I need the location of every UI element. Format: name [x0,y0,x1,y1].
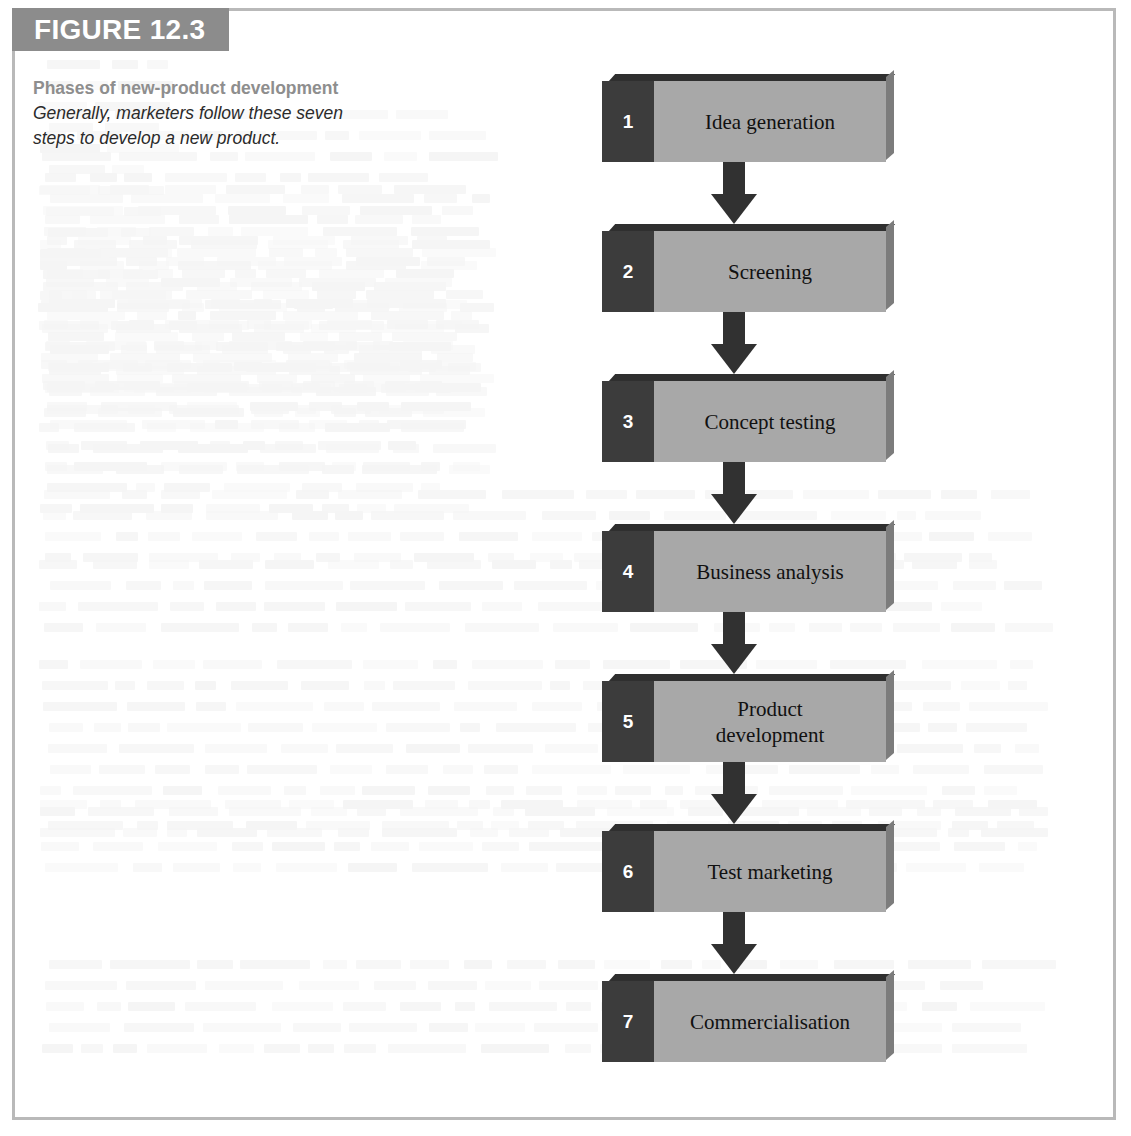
arrow-head [711,644,757,674]
flow-step-right-bevel [886,970,894,1060]
flow-step-body: 6Test marketing [602,831,886,912]
figure-page: FIGURE 12.3 Phases of new-product develo… [0,0,1131,1136]
flow-step-3: 3Concept testing [602,374,894,469]
arrow-shaft [723,612,745,646]
flow-step-body: 4Business analysis [602,531,886,612]
arrow-head [711,194,757,224]
flow-step-number: 7 [602,981,654,1062]
flow-step-right-bevel [886,220,894,310]
flow-step-number: 4 [602,531,654,612]
flow-step-label: Test marketing [654,831,886,912]
arrow-shaft [723,762,745,796]
figure-caption-title: Phases of new-product development [33,78,338,98]
flow-step-6: 6Test marketing [602,824,894,919]
arrow-head [711,794,757,824]
flow-step-number: 5 [602,681,654,762]
flow-arrow-down-icon [711,762,757,824]
flow-step-right-bevel [886,370,894,460]
arrow-head [711,344,757,374]
flow-arrow-down-icon [711,462,757,524]
flow-step-right-bevel [886,70,894,160]
flow-arrow-down-icon [711,912,757,974]
flow-step-5: 5Product development [602,674,894,769]
new-product-development-flowchart: 1Idea generation2Screening3Concept testi… [602,74,902,1104]
flow-step-number: 1 [602,81,654,162]
flow-step-4: 4Business analysis [602,524,894,619]
flow-step-body: 7Commercialisation [602,981,886,1062]
figure-caption: Phases of new-product development Genera… [33,76,363,151]
figure-frame [12,8,1116,1120]
flow-step-1: 1Idea generation [602,74,894,169]
flow-step-label: Product development [654,681,886,762]
arrow-shaft [723,462,745,496]
flow-step-number: 3 [602,381,654,462]
flow-step-right-bevel [886,520,894,610]
flow-step-label: Idea generation [654,81,886,162]
flow-step-label: Commercialisation [654,981,886,1062]
flow-step-right-bevel [886,820,894,910]
flow-arrow-down-icon [711,612,757,674]
flow-step-right-bevel [886,670,894,760]
arrow-shaft [723,312,745,346]
figure-number-label: FIGURE 12.3 [34,14,205,46]
flow-arrow-down-icon [711,312,757,374]
arrow-shaft [723,912,745,946]
flow-step-number: 2 [602,231,654,312]
flow-step-label: Screening [654,231,886,312]
arrow-head [711,944,757,974]
arrow-shaft [723,162,745,196]
flow-step-label: Concept testing [654,381,886,462]
flow-step-body: 2Screening [602,231,886,312]
flow-step-label: Business analysis [654,531,886,612]
flow-arrow-down-icon [711,162,757,224]
flow-step-2: 2Screening [602,224,894,319]
figure-caption-description: Generally, marketers follow these seven … [33,103,343,148]
flow-step-number: 6 [602,831,654,912]
arrow-head [711,494,757,524]
flow-step-body: 1Idea generation [602,81,886,162]
flow-step-body: 3Concept testing [602,381,886,462]
flow-step-7: 7Commercialisation [602,974,894,1069]
figure-number-banner: FIGURE 12.3 [12,8,229,51]
flow-step-body: 5Product development [602,681,886,762]
